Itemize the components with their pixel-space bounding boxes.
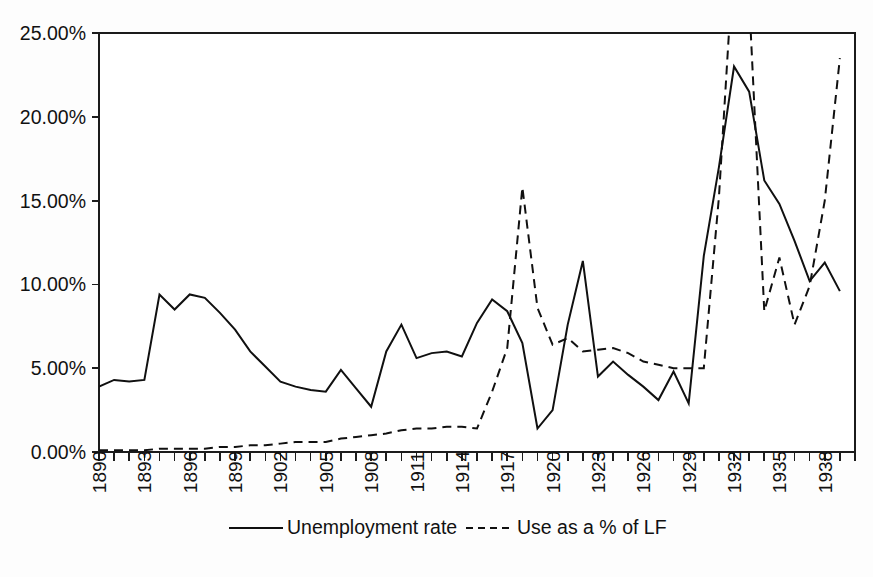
y-tick-label: 5.00% bbox=[31, 357, 86, 379]
x-tick-label: 1929 bbox=[679, 451, 700, 493]
chart-legend: Unemployment rateUse as a % of LF bbox=[229, 516, 667, 538]
x-tick-label: 1905 bbox=[316, 451, 337, 493]
x-axis-labels: 1890189318961899190219051908191119141917… bbox=[89, 450, 836, 493]
y-tick-label: 25.00% bbox=[20, 22, 86, 44]
x-tick-label: 1926 bbox=[633, 451, 654, 493]
x-tick-label: 1914 bbox=[452, 450, 473, 493]
x-tick-label: 1902 bbox=[270, 451, 291, 493]
x-tick-label: 1908 bbox=[361, 451, 382, 493]
x-tick-label: 1920 bbox=[543, 451, 564, 493]
line-chart: 0.00%5.00%10.00%15.00%20.00%25.00% 18901… bbox=[0, 0, 873, 577]
x-tick-label: 1896 bbox=[180, 451, 201, 493]
x-tick-label: 1911 bbox=[407, 452, 428, 493]
x-tick-label: 1935 bbox=[769, 451, 790, 493]
x-tick-label: 1899 bbox=[225, 451, 246, 493]
x-tick-label: 1938 bbox=[815, 451, 836, 493]
plot-background bbox=[99, 33, 855, 452]
x-tick-label: 1923 bbox=[588, 451, 609, 493]
chart-figure: 0.00%5.00%10.00%15.00%20.00%25.00% 18901… bbox=[0, 0, 873, 577]
y-tick-label: 0.00% bbox=[31, 441, 86, 463]
y-tick-label: 15.00% bbox=[20, 190, 86, 212]
x-tick-label: 1917 bbox=[497, 451, 518, 493]
legend-label-2: Use as a % of LF bbox=[517, 516, 667, 538]
y-tick-label: 10.00% bbox=[20, 273, 86, 295]
legend-label-1: Unemployment rate bbox=[287, 516, 457, 538]
x-tick-label: 1932 bbox=[724, 451, 745, 493]
y-tick-label: 20.00% bbox=[20, 106, 86, 128]
y-axis-labels: 0.00%5.00%10.00%15.00%20.00%25.00% bbox=[20, 22, 86, 463]
x-tick-label: 1890 bbox=[89, 451, 110, 493]
x-tick-label: 1893 bbox=[134, 451, 155, 493]
